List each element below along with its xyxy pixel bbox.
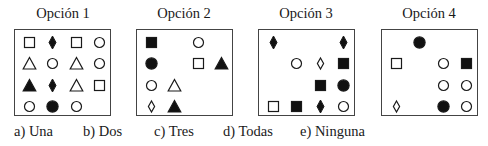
- circle-outline-icon: [186, 31, 210, 53]
- diamond-filled-icon: [308, 95, 332, 117]
- diamond-filled-icon: [40, 31, 64, 53]
- square-outline-icon: [261, 95, 285, 117]
- circle-outline-icon: [284, 52, 308, 74]
- answer-d[interactable]: d) Todas: [223, 123, 273, 140]
- panel-option-3: [258, 29, 355, 116]
- circle-filled-icon: [407, 31, 431, 53]
- answer-a[interactable]: a) Una: [14, 123, 53, 140]
- panel-title-1: Opción 1: [13, 5, 113, 22]
- diamond-outline-icon: [139, 95, 163, 117]
- square-outline-icon: [186, 52, 210, 74]
- circle-outline-icon: [331, 95, 355, 117]
- square-filled-icon: [139, 31, 163, 53]
- answer-b[interactable]: b) Dos: [83, 123, 122, 140]
- panel-option-1: [14, 29, 111, 116]
- triangle-outline-icon: [17, 52, 41, 74]
- circle-filled-icon: [331, 74, 355, 96]
- panel-option-4: [381, 29, 478, 116]
- circle-outline-icon: [17, 95, 41, 117]
- answer-e[interactable]: e) Ninguna: [300, 123, 365, 140]
- circle-filled-icon: [431, 95, 455, 117]
- circle-filled-icon: [139, 52, 163, 74]
- circle-outline-icon: [139, 74, 163, 96]
- answer-c[interactable]: c) Tres: [154, 123, 194, 140]
- diamond-outline-icon: [308, 52, 332, 74]
- diamond-filled-icon: [261, 31, 285, 53]
- square-outline-icon: [384, 52, 408, 74]
- square-filled-icon: [331, 52, 355, 74]
- triangle-outline-icon: [64, 52, 88, 74]
- square-filled-icon: [454, 52, 478, 74]
- circle-outline-icon: [87, 31, 111, 53]
- square-outline-icon: [17, 31, 41, 53]
- panel-title-3: Opción 3: [256, 5, 356, 22]
- panel-title-2: Opción 2: [134, 5, 234, 22]
- triangle-filled-icon: [162, 95, 186, 117]
- diamond-filled-icon: [331, 31, 355, 53]
- square-outline-icon: [87, 74, 111, 96]
- circle-outline-icon: [454, 95, 478, 117]
- triangle-outline-icon: [64, 74, 88, 96]
- diamond-outline-icon: [384, 95, 408, 117]
- circle-outline-icon: [87, 52, 111, 74]
- circle-outline-icon: [431, 52, 455, 74]
- square-filled-icon: [308, 74, 332, 96]
- circle-outline-icon: [454, 74, 478, 96]
- circle-outline-icon: [431, 74, 455, 96]
- circle-outline-icon: [64, 95, 88, 117]
- circle-outline-icon: [40, 52, 64, 74]
- diamond-filled-icon: [40, 74, 64, 96]
- triangle-outline-icon: [162, 74, 186, 96]
- square-filled-icon: [284, 95, 308, 117]
- triangle-filled-icon: [209, 52, 233, 74]
- panel-option-2: [136, 29, 233, 116]
- triangle-filled-icon: [17, 74, 41, 96]
- square-outline-icon: [64, 31, 88, 53]
- circle-filled-icon: [40, 95, 64, 117]
- panel-title-4: Opción 4: [379, 5, 479, 22]
